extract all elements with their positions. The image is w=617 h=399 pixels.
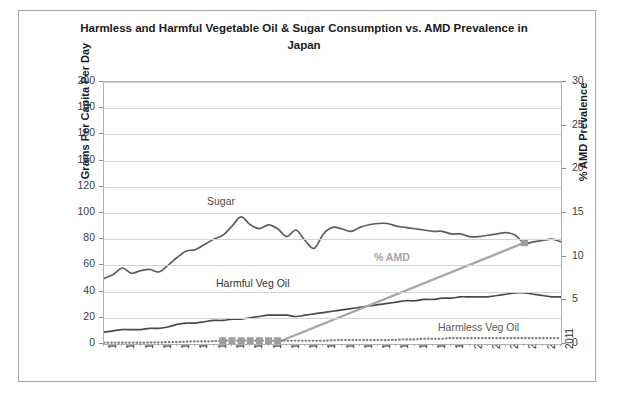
y-axis-label-right: % AMD Prevalence [577,37,589,227]
gridline [104,239,561,240]
series-marker [219,337,226,344]
y-tick-mark-right [562,125,566,126]
y-tick-label-left: 120 [61,179,95,191]
y-tick-label-right: 0 [572,336,602,348]
y-tick-label-right: 25 [572,118,602,130]
series-marker [238,337,245,344]
chart-title: Harmless and Harmful Vegetable Oil & Sug… [59,20,549,54]
series-marker [247,337,254,344]
plot-area [103,81,562,345]
series-label-harmful-veg-oil: Harmful Veg Oil [216,277,290,289]
series-label-sugar: Sugar [207,195,235,207]
gridline [104,318,561,319]
y-tick-label-left: 140 [61,153,95,165]
y-tick-label-left: 60 [61,257,95,269]
y-tick-label-left: 200 [61,74,95,86]
gridline [104,161,561,162]
gridline [104,187,561,188]
series-marker [274,337,281,344]
y-tick-label-left: 160 [61,126,95,138]
gridline [104,108,561,109]
y-tick-label-right: 30 [572,74,602,86]
y-tick-mark-right [562,81,566,82]
series-marker [256,337,263,344]
x-tick-label: 2011 [564,328,575,349]
series-label-harmless-veg-oil: Harmless Veg Oil [438,321,519,333]
chart-title-line1: Harmless and Harmful Vegetable Oil & Sug… [59,20,549,37]
y-tick-label-left: 80 [61,231,95,243]
gridline [104,213,561,214]
y-tick-label-left: 20 [61,310,95,322]
series-line-harmless-veg-oil [104,338,561,343]
gridline [104,82,561,83]
y-tick-mark-right [562,299,566,300]
series-label-amd: % AMD [374,251,410,263]
series-line-sugar [104,217,561,279]
y-tick-label-right: 10 [572,249,602,261]
gridline [104,134,561,135]
y-tick-mark-right [562,168,566,169]
y-tick-label-right: 5 [572,292,602,304]
chart-frame: Harmless and Harmful Vegetable Oil & Sug… [18,10,596,382]
y-tick-mark-right [562,256,566,257]
series-marker [265,337,272,344]
series-marker [521,239,528,246]
y-tick-label-left: 180 [61,100,95,112]
gridline [104,265,561,266]
y-tick-label-left: 0 [61,336,95,348]
y-tick-mark-right [562,212,566,213]
chart-screenshot: Harmless and Harmful Vegetable Oil & Sug… [0,0,617,399]
y-tick-label-left: 40 [61,284,95,296]
chart-title-line2: Japan [59,37,549,54]
series-marker [228,337,235,344]
gridline [104,292,561,293]
y-tick-label-right: 20 [572,161,602,173]
y-tick-label-right: 15 [572,205,602,217]
y-tick-label-left: 100 [61,205,95,217]
